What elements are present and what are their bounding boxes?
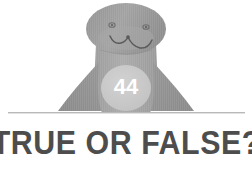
quiz-card: 44 TRUE OR FALSE? bbox=[0, 0, 252, 169]
seal-flipper-right bbox=[151, 62, 194, 111]
horizontal-divider-shadow bbox=[8, 113, 245, 114]
seal-flipper-left bbox=[58, 62, 101, 111]
seal-mascot bbox=[0, 0, 252, 118]
headline-text: TRUE OR FALSE? bbox=[0, 126, 252, 159]
belly-badge bbox=[101, 65, 151, 111]
headline: TRUE OR FALSE? bbox=[0, 120, 252, 165]
